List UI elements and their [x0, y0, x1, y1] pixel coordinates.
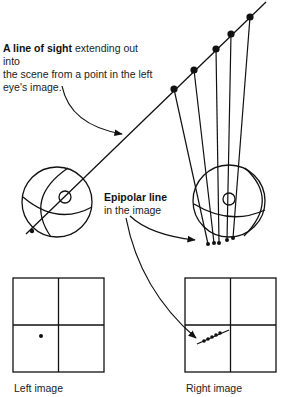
projection-ray — [233, 17, 250, 238]
image-grids — [13, 278, 276, 372]
epipolar-point — [206, 337, 210, 341]
epipolar-point — [210, 335, 214, 339]
epipolar-eye-arrow — [130, 216, 195, 240]
epipolar-line-title: Epipolar line — [104, 191, 167, 203]
scene-point — [190, 66, 197, 73]
retina-point — [206, 242, 210, 246]
projection-ray — [174, 89, 208, 244]
right-image-caption: Right image — [186, 382, 242, 395]
scene-point — [170, 85, 177, 92]
epipolar-point — [202, 339, 206, 343]
retina-point — [225, 238, 229, 242]
left-image-caption: Left image — [14, 382, 63, 395]
right-image-grid — [185, 278, 276, 372]
left-image-grid — [13, 278, 104, 372]
epipolar-point — [218, 331, 222, 335]
left-eye — [22, 167, 92, 237]
retina-point — [212, 241, 216, 245]
left-image-point — [39, 334, 43, 338]
scene-point — [212, 45, 219, 52]
epipolar-point — [214, 333, 218, 337]
line-of-sight-title: A line of sight — [3, 42, 72, 54]
left-retina-point — [30, 229, 34, 233]
retina-point — [217, 241, 221, 245]
retina-point — [231, 236, 235, 240]
epipolar-line-annotation: Epipolar line in the image — [104, 191, 204, 217]
right-pupil — [223, 193, 235, 205]
scene-point — [227, 30, 234, 37]
line-of-sight-annotation: A line of sight extending out into the s… — [3, 42, 153, 94]
scene-point — [246, 13, 253, 20]
projection-ray — [227, 34, 231, 240]
